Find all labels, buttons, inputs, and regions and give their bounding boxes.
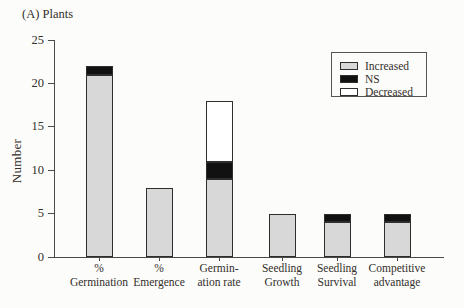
bar-segment-ns (384, 214, 411, 223)
bar-segment-decreased (206, 101, 233, 162)
bar-segment-increased (324, 222, 351, 257)
y-axis-tick (48, 170, 54, 171)
legend-swatch (340, 75, 358, 83)
y-axis-tick (48, 126, 54, 127)
legend-label: Decreased (365, 86, 413, 98)
legend-swatch (340, 88, 358, 96)
legend-swatch (340, 62, 358, 70)
x-category-label: Competitive advantage (349, 262, 445, 289)
y-axis-tick-label: 25 (14, 33, 44, 48)
bar-segment-ns (324, 214, 351, 223)
y-axis-tick (48, 213, 54, 214)
legend-item: Decreased (340, 85, 426, 98)
legend-label: NS (365, 73, 380, 85)
bar-segment-increased (206, 179, 233, 257)
bar-segment-increased (86, 75, 113, 257)
figure-title: (A) Plants (22, 7, 73, 22)
y-axis-tick-label: 10 (14, 163, 44, 178)
legend: IncreasedNSDecreased (331, 52, 427, 97)
x-axis-tick (99, 257, 100, 261)
y-axis-tick-label: 15 (14, 119, 44, 134)
bar-segment-ns (86, 66, 113, 75)
y-axis-tick (48, 257, 54, 258)
y-axis-tick (48, 40, 54, 41)
y-axis-tick-label: 20 (14, 76, 44, 91)
bar-segment-increased (269, 214, 296, 257)
x-axis-tick (219, 257, 220, 261)
x-axis-tick (397, 257, 398, 261)
y-axis-tick-label: 5 (14, 206, 44, 221)
legend-item: Increased (340, 59, 426, 72)
bar-segment-increased (146, 188, 173, 257)
y-axis-tick (48, 83, 54, 84)
y-axis-tick-label: 0 (14, 250, 44, 265)
legend-label: Increased (365, 60, 409, 72)
x-axis-tick (159, 257, 160, 261)
x-axis-tick (282, 257, 283, 261)
plants-stacked-bar-chart: (A) Plants Number 0510152025% Germinatio… (0, 0, 464, 308)
bar-segment-increased (384, 222, 411, 257)
x-axis-tick (337, 257, 338, 261)
bar-segment-ns (206, 162, 233, 179)
legend-item: NS (340, 72, 426, 85)
